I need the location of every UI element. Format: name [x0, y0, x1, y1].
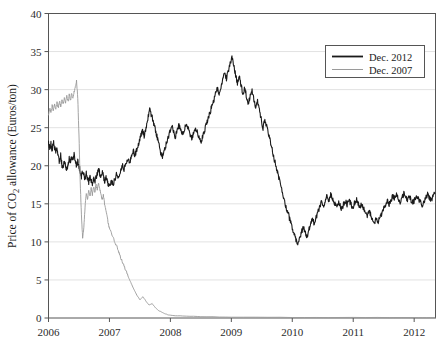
y-tick-label-10: 10 [31, 236, 43, 248]
x-tick-label-2012: 2012 [403, 326, 425, 338]
chart-legend: Dec. 2012Dec. 2007 [326, 46, 425, 78]
x-tick-label-2010: 2010 [281, 326, 304, 338]
y-tick-label-30: 30 [31, 84, 43, 96]
data-series-layer [49, 56, 435, 318]
legend-label-dec-2012: Dec. 2012 [369, 52, 412, 63]
co2-allowance-price-line-chart: 0510152025303540 20062007200820092010201… [0, 0, 448, 352]
y-tick-label-40: 40 [31, 8, 43, 20]
y-tick-label-0: 0 [36, 312, 42, 324]
x-tick-label-2006: 2006 [38, 326, 61, 338]
y-tick-label-15: 15 [31, 198, 43, 210]
y-tick-label-25: 25 [31, 122, 43, 134]
x-tick-label-2009: 2009 [220, 326, 243, 338]
y-tick-label-5: 5 [36, 274, 42, 286]
y-tick-label-35: 35 [31, 46, 43, 58]
y-axis-title: Price of CO2 allowance (Euros/ton) [6, 84, 21, 248]
y-tick-label-20: 20 [31, 160, 43, 172]
legend-label-dec-2007: Dec. 2007 [369, 65, 412, 76]
series-line-dec-2007 [49, 80, 435, 318]
y-axis-title-text: Price of CO2 allowance (Euros/ton) [6, 84, 21, 248]
x-tick-label-2008: 2008 [159, 326, 182, 338]
chart-figure: 0510152025303540 20062007200820092010201… [0, 0, 448, 352]
series-line-dec-2012 [49, 56, 435, 245]
x-axis-ticks: 2006200720082009201020112012 [38, 318, 426, 338]
x-tick-label-2007: 2007 [98, 326, 121, 338]
y-axis-ticks: 0510152025303540 [31, 8, 49, 325]
x-tick-label-2011: 2011 [342, 326, 364, 338]
